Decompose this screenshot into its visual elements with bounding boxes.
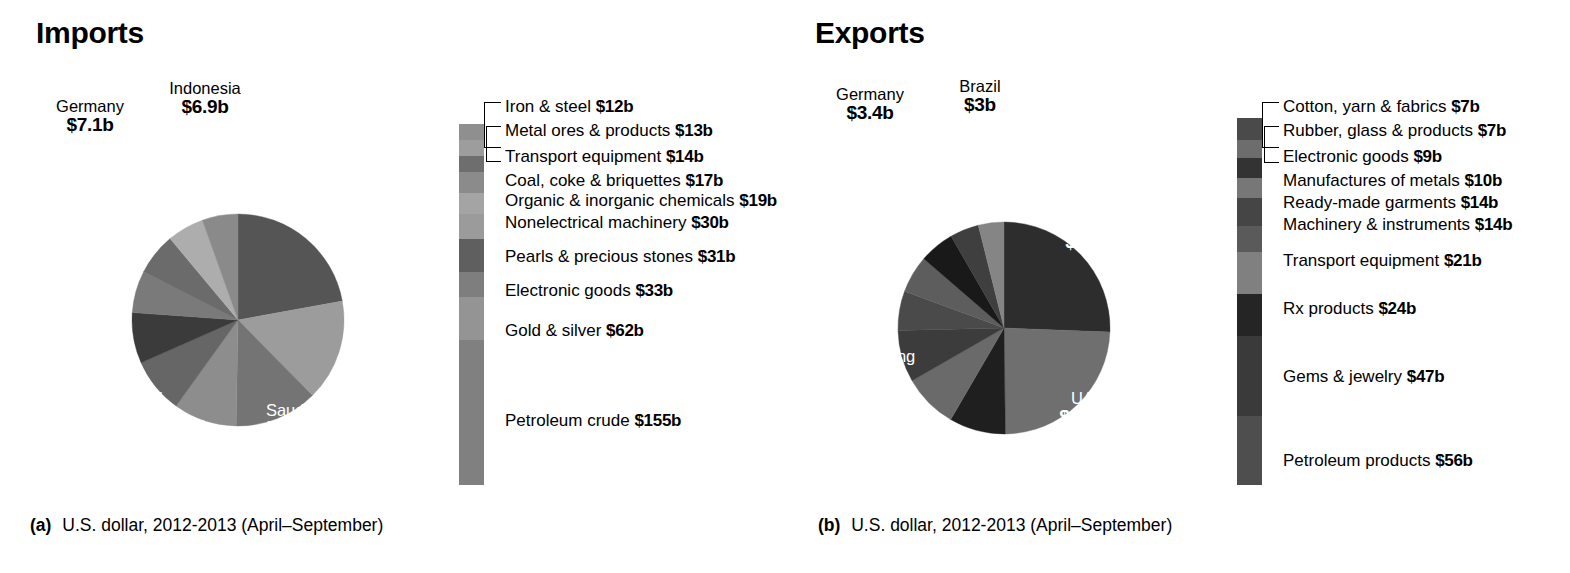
- legend-item-label: Pearls & precious stones: [505, 247, 698, 266]
- imports-caption-text: U.S. dollar, 2012-2013 (April–September): [62, 515, 383, 535]
- slice-value: $9.8b: [58, 341, 138, 360]
- legend-leader-line: [486, 126, 501, 162]
- legend-swatch-3[interactable]: [1237, 178, 1262, 198]
- legend-item[interactable]: Petroleum crude $155b: [505, 412, 681, 429]
- slice-value: $6.9b: [150, 97, 260, 116]
- imports-caption-tag: (a): [30, 515, 51, 535]
- legend-swatch-4[interactable]: [459, 193, 484, 214]
- pie-slice-label-germany: Germany$7.1b: [38, 98, 142, 134]
- legend-item-value: $21b: [1444, 251, 1482, 270]
- pie-slice-label-kuwait: Kuwait$8.1b: [62, 200, 148, 236]
- legend-item-label: Organic & inorganic chemicals: [505, 191, 739, 210]
- legend-item-value: $9b: [1413, 147, 1441, 166]
- legend-item-label: Electronic goods: [1283, 147, 1413, 166]
- slice-country-name: UAE: [1040, 390, 1136, 407]
- pie-slice-label-uae: UAE$18.6b: [1040, 390, 1136, 426]
- slice-country-name: Germany: [820, 86, 920, 103]
- slice-value: $8.1b: [62, 217, 148, 236]
- slice-value: $3b: [938, 95, 1022, 114]
- legend-swatch-9[interactable]: [459, 340, 484, 485]
- legend-item-label: Machinery & instruments: [1283, 215, 1475, 234]
- legend-item[interactable]: Nonelectrical machinery $30b: [505, 214, 729, 231]
- legend-swatch-9[interactable]: [1237, 416, 1262, 485]
- imports-legend-color-bar: [459, 124, 484, 485]
- legend-item[interactable]: Electronic goods $33b: [505, 282, 673, 299]
- slice-value: $19.6b: [328, 321, 418, 340]
- slice-country-name: Hong Kong: [820, 348, 928, 365]
- exports-legend-color-bar: [1237, 118, 1262, 485]
- legend-item[interactable]: Ready-made garments $14b: [1283, 194, 1498, 211]
- legend-swatch-0[interactable]: [459, 124, 484, 140]
- legend-swatch-0[interactable]: [1237, 118, 1262, 140]
- legend-swatch-7[interactable]: [459, 272, 484, 297]
- legend-item[interactable]: Coal, coke & briquettes $17b: [505, 172, 723, 189]
- exports-caption: (b) U.S. dollar, 2012-2013 (April–Septem…: [818, 515, 1172, 536]
- legend-swatch-5[interactable]: [1237, 226, 1262, 252]
- legend-item[interactable]: Pearls & precious stones $31b: [505, 248, 735, 265]
- legend-swatch-8[interactable]: [459, 297, 484, 340]
- legend-swatch-2[interactable]: [1237, 158, 1262, 178]
- legend-item-label: Coal, coke & briquettes: [505, 171, 685, 190]
- legend-item-value: $62b: [606, 321, 644, 340]
- legend-item-label: Ready-made garments: [1283, 193, 1461, 212]
- legend-swatch-4[interactable]: [1237, 198, 1262, 226]
- slice-value: $19.7b: [1046, 232, 1142, 251]
- legend-item-label: Iron & steel: [505, 97, 596, 116]
- legend-item[interactable]: Transport equipment $21b: [1283, 252, 1482, 269]
- slice-value: $18.6b: [1040, 407, 1136, 426]
- slice-value: $8.1b: [44, 282, 126, 301]
- legend-item-value: $14b: [1461, 193, 1499, 212]
- legend-swatch-6[interactable]: [459, 239, 484, 272]
- slice-country-name: Saudi Arabia: [242, 402, 332, 436]
- slice-country-name: Kuwait: [62, 200, 148, 217]
- legend-swatch-1[interactable]: [459, 140, 484, 156]
- legend-item[interactable]: Electronic goods $9b: [1283, 148, 1442, 165]
- legend-item-label: Metal ores & products: [505, 121, 675, 140]
- slice-country-name: Germany: [38, 98, 142, 115]
- legend-item[interactable]: Rx products $24b: [1283, 300, 1416, 317]
- legend-item[interactable]: Metal ores & products $13b: [505, 122, 713, 139]
- slice-country-name: Iraq: [58, 324, 138, 341]
- slice-country-name: Switzerland: [60, 390, 180, 407]
- legend-item-value: $47b: [1407, 367, 1445, 386]
- pie-slice-label-hong-kong: Hong Kong$6.1b: [820, 348, 928, 384]
- legend-item[interactable]: Gold & silver $62b: [505, 322, 644, 339]
- legend-item-label: Transport equipment: [505, 147, 666, 166]
- legend-swatch-2[interactable]: [459, 156, 484, 172]
- legend-item-value: $7b: [1451, 97, 1479, 116]
- pie-slice-label-switzerland: Switzerland$10.7b: [60, 390, 180, 426]
- legend-item[interactable]: Transport equipment $14b: [505, 148, 704, 165]
- slice-value: $4.1b: [854, 195, 924, 214]
- legend-item-value: $17b: [685, 171, 723, 190]
- legend-item[interactable]: Rubber, glass & products $7b: [1283, 122, 1506, 139]
- legend-swatch-3[interactable]: [459, 172, 484, 193]
- legend-item[interactable]: Machinery & instruments $14b: [1283, 216, 1512, 233]
- legend-swatch-1[interactable]: [1237, 140, 1262, 158]
- legend-item[interactable]: Iron & steel $12b: [505, 98, 633, 115]
- slice-value: $3.4b: [820, 103, 920, 122]
- imports-chart-title: Imports: [36, 16, 144, 50]
- legend-swatch-7[interactable]: [1237, 294, 1262, 336]
- legend-swatch-6[interactable]: [1237, 252, 1262, 294]
- legend-item-label: Nonelectrical machinery: [505, 213, 691, 232]
- slice-value: $6.4b: [852, 427, 936, 446]
- legend-swatch-8[interactable]: [1237, 336, 1262, 416]
- legend-item-value: $7b: [1478, 121, 1506, 140]
- legend-item-label: Cotton, yarn & fabrics: [1283, 97, 1451, 116]
- pie-slice-label-brazil: Brazil$3b: [938, 78, 1022, 114]
- legend-item[interactable]: Gems & jewelry $47b: [1283, 368, 1444, 385]
- legend-item[interactable]: Petroleum products $56b: [1283, 452, 1473, 469]
- legend-item[interactable]: Organic & inorganic chemicals $19b: [505, 192, 777, 209]
- pie-slice-label-uk: UK$4.1b: [854, 178, 924, 214]
- pie-slice-label-china: China$28b: [268, 198, 368, 234]
- exports-caption-tag: (b): [818, 515, 840, 535]
- imports-panel: Imports Iron & steel $12bMetal ores & pr…: [0, 0, 785, 573]
- slice-country-name: UAE: [328, 304, 418, 321]
- legend-swatch-5[interactable]: [459, 214, 484, 239]
- slice-value: $4.4b: [812, 249, 928, 268]
- pie-slice-label-saudi-arabia: Saudi Arabia$4.6b: [806, 276, 906, 312]
- legend-item-value: $155b: [634, 411, 681, 430]
- legend-item[interactable]: Manufactures of metals $10b: [1283, 172, 1502, 189]
- legend-item-value: $24b: [1378, 299, 1416, 318]
- legend-item[interactable]: Cotton, yarn & fabrics $7b: [1283, 98, 1480, 115]
